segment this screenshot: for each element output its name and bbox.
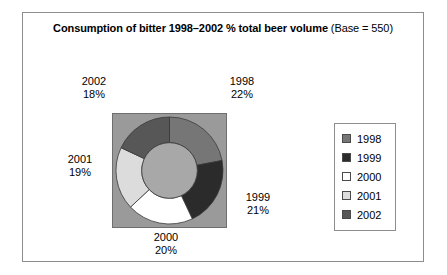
legend-label-2000: 2000 <box>357 171 381 183</box>
data-label-1999-percent: 21% <box>235 204 281 217</box>
legend-swatch-1999-icon <box>342 153 351 162</box>
legend-item-2000: 2000 <box>342 167 395 186</box>
data-label-2000-year: 2000 <box>143 231 189 244</box>
legend-item-2001: 2001 <box>342 186 395 205</box>
data-label-2002-percent: 18% <box>71 88 117 101</box>
data-label-2002-year: 2002 <box>71 75 117 88</box>
legend-label-2002: 2002 <box>357 209 381 221</box>
data-label-2001-year: 2001 <box>57 153 103 166</box>
data-label-2000-percent: 20% <box>143 244 189 257</box>
data-label-1998: 1998 22% <box>219 75 265 101</box>
donut-center-hole <box>142 143 198 199</box>
data-label-1999: 1999 21% <box>235 191 281 217</box>
chart-figure-frame: Consumption of bitter 1998–2002 % total … <box>22 12 424 262</box>
chart-title: Consumption of bitter 1998–2002 % total … <box>23 21 423 35</box>
legend-swatch-2000-icon <box>342 172 351 181</box>
chart-title-main: Consumption of bitter 1998–2002 % total … <box>53 22 328 34</box>
legend-label-1998: 1998 <box>357 133 381 145</box>
legend-swatch-1998-icon <box>342 134 351 143</box>
data-label-2000: 2000 20% <box>143 231 189 257</box>
legend-swatch-2002-icon <box>342 210 351 219</box>
data-label-1999-year: 1999 <box>235 191 281 204</box>
chart-title-base: (Base = 550) <box>328 22 393 34</box>
legend-item-1999: 1999 <box>342 148 395 167</box>
legend-swatch-2001-icon <box>342 191 351 200</box>
legend-item-2002: 2002 <box>342 205 395 224</box>
donut-chart-plot-area <box>112 113 227 228</box>
chart-legend: 1998 1999 2000 2001 2002 <box>334 123 396 231</box>
legend-label-1999: 1999 <box>357 152 381 164</box>
legend-label-2001: 2001 <box>357 190 381 202</box>
data-label-2001-percent: 19% <box>57 166 103 179</box>
data-label-1998-percent: 22% <box>219 88 265 101</box>
data-label-2001: 2001 19% <box>57 153 103 179</box>
legend-item-1998: 1998 <box>342 129 395 148</box>
donut-chart-svg <box>113 114 226 227</box>
data-label-1998-year: 1998 <box>219 75 265 88</box>
data-label-2002: 2002 18% <box>71 75 117 101</box>
